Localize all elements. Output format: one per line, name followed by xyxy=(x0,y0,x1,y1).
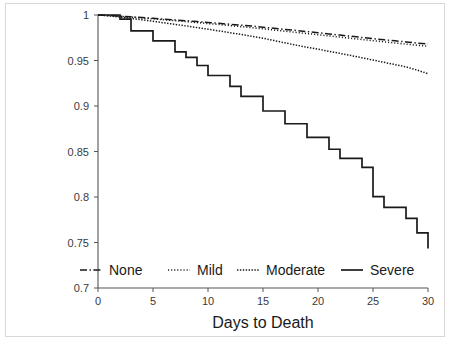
y-tick-label: 0.95 xyxy=(68,55,89,67)
y-tick-label: 0.7 xyxy=(74,282,89,294)
y-tick-label: 0.75 xyxy=(68,237,89,249)
y-tick-label: 0.8 xyxy=(74,191,89,203)
chart-legend: NoneMildModerateSevere xyxy=(80,262,415,278)
y-tick-label: 1 xyxy=(83,9,89,21)
y-tick-label: 0.9 xyxy=(74,100,89,112)
x-tick-label: 10 xyxy=(202,295,214,307)
x-tick-label: 30 xyxy=(422,295,434,307)
x-tick-label: 25 xyxy=(367,295,379,307)
legend-label-none: None xyxy=(109,262,143,278)
x-tick-label: 15 xyxy=(257,295,269,307)
legend-label-mild: Mild xyxy=(197,262,223,278)
survival-plot: 0.70.750.80.850.90.951 051015202530 None… xyxy=(0,0,450,344)
curve-severe xyxy=(98,15,428,248)
x-axis-title: Days to Death xyxy=(212,314,313,331)
axes-group xyxy=(98,15,428,288)
figure-container: 0.70.750.80.850.90.951 051015202530 None… xyxy=(0,0,450,344)
y-tick-label: 0.85 xyxy=(68,146,89,158)
x-axis-ticks: 051015202530 xyxy=(95,288,434,307)
curve-none xyxy=(98,15,428,44)
curve-moderate xyxy=(98,15,428,74)
y-axis-ticks: 0.70.750.80.850.90.951 xyxy=(68,9,98,294)
x-tick-label: 5 xyxy=(150,295,156,307)
x-tick-label: 20 xyxy=(312,295,324,307)
legend-label-severe: Severe xyxy=(370,262,415,278)
legend-label-moderate: Moderate xyxy=(266,262,325,278)
x-tick-label: 0 xyxy=(95,295,101,307)
data-curves xyxy=(98,15,428,248)
